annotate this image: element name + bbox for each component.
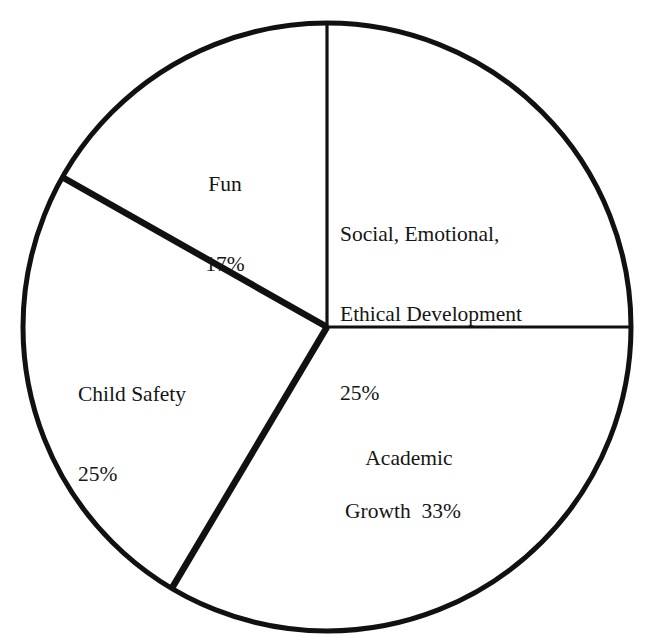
slice-label-social-value: 25% [340,380,590,407]
slice-label-fun: Fun 17% [170,118,280,330]
slice-label-academic-value: 33% [421,499,460,523]
pie-chart-figure: Fun 17% Social, Emotional, Ethical Devel… [0,0,652,637]
slice-label-academic-line1: Academic [365,446,452,470]
slice-label-child-safety: Child Safety 25% [78,328,278,540]
slice-label-social-line2: Ethical Development [340,301,590,328]
slice-label-academic-gap [411,499,422,523]
slice-label-academic-line2-wrap: Growth 33% [345,498,565,525]
slice-label-social-emotional-ethical-development: Social, Emotional, Ethical Development 2… [340,168,590,460]
slice-label-fun-value: 17% [170,251,280,278]
slice-label-academic-growth: Academic Growth 33% [345,418,565,577]
slice-label-academic-line2: Growth [345,499,411,523]
slice-label-child-safety-name: Child Safety [78,381,278,408]
slice-label-social-line1: Social, Emotional, [340,221,590,248]
slice-label-child-safety-value: 25% [78,461,278,488]
slice-label-fun-name: Fun [170,171,280,198]
